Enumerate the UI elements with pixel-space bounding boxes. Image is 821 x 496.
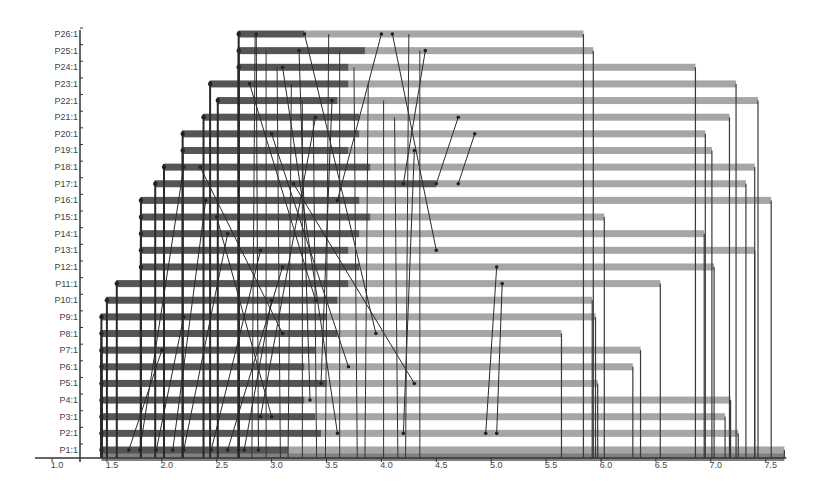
bar-light-segment [305,397,731,404]
row-label: P21:1 [54,112,78,122]
x-tick-label: 4.5 [435,460,448,470]
message-send-marker [182,315,186,319]
message-send-marker [259,249,263,253]
message-send-marker [424,49,428,53]
message-send-marker [204,199,208,203]
message-send-marker [198,165,202,169]
x-tick-label: 1.5 [106,460,119,470]
x-tick-label: 7.5 [764,460,777,470]
message-send-marker [226,232,230,236]
message-line [173,200,206,450]
message-recv-marker [237,448,241,452]
row-label: P10:1 [54,295,78,305]
message-recv-marker [456,182,460,186]
message-recv-marker [171,448,175,452]
row-label: P13:1 [54,245,78,255]
bar-light-segment [305,31,584,38]
row-label: P16:1 [54,195,78,205]
row-label: P19:1 [54,145,78,155]
x-tick-label: 6.5 [655,460,668,470]
x-tick-label: 6.0 [600,460,613,470]
message-recv-marker [435,182,439,186]
x-tick-label: 4.0 [380,460,393,470]
bar-dark-segment [183,147,349,154]
row-label: P18:1 [54,162,78,172]
bar-light-segment [327,380,598,387]
x-tick-label: 2.0 [161,460,174,470]
bar-light-segment [365,47,593,54]
x-tick-label: 2.5 [215,460,228,470]
message-recv-marker [347,365,351,369]
row-label: P11:1 [55,279,78,289]
message-send-marker [303,32,307,36]
bar-light-segment [327,313,596,320]
message-line [497,284,502,434]
message-recv-marker [336,432,340,436]
bar-light-segment [316,413,726,420]
row-label: P22:1 [54,96,78,106]
bar-light-segment [348,147,711,154]
x-tick-label: 5.5 [545,460,558,470]
row-label: P26:1 [54,29,78,39]
message-line [458,134,474,184]
bar-dark-segment [204,114,360,121]
message-send-marker [495,265,499,269]
bar-dark-segment [239,47,365,54]
message-recv-marker [270,415,274,419]
bar-light-segment [348,247,754,254]
message-send-marker [160,348,164,352]
x-tick-label: 3.0 [270,460,283,470]
message-recv-marker [259,415,263,419]
message-recv-marker [127,448,131,452]
bar-dark-segment [155,180,436,187]
bar-light-segment [348,280,660,287]
message-recv-marker [413,382,417,386]
start-marker [201,115,205,119]
message-recv-marker [402,182,406,186]
bar-light-segment [370,214,604,221]
y-axis: P1:1P2:1P3:1P4:1P5:1P6:1P7:1P8:1P9:1P10:… [54,28,83,462]
message-send-marker [237,32,241,36]
bar-dark-segment [101,380,326,387]
message-send-marker [270,132,274,136]
message-recv-marker [281,332,285,336]
row-label: P23:1 [54,79,78,89]
start-marker [139,198,143,202]
message-send-marker [182,165,186,169]
row-label: P1:1 [59,445,78,455]
x-tick-label: 1.0 [51,460,64,470]
row-label: P6:1 [59,362,78,372]
message-recv-marker [242,448,246,452]
message-line [256,34,258,450]
row-label: P15:1 [54,212,78,222]
row-label: P8:1 [59,329,78,339]
message-send-marker [456,115,460,119]
message-recv-marker [435,249,439,253]
message-send-marker [330,99,334,103]
start-marker [180,132,184,136]
row-label: P3:1 [59,412,78,422]
message-recv-marker [495,432,499,436]
message-send-marker [473,132,477,136]
bar-dark-segment [101,413,315,420]
message-send-marker [281,65,285,69]
message-send-marker [248,82,252,86]
message-send-marker [500,282,504,286]
message-recv-marker [209,448,213,452]
bar-dark-segment [239,31,305,38]
bar-light-segment [337,297,592,304]
bar-dark-segment [117,280,349,287]
message-send-marker [292,182,296,186]
bar-start-lines [99,31,241,458]
x-tick-label: 5.0 [490,460,503,470]
start-marker [115,281,119,285]
row-label: P20:1 [54,129,78,139]
message-send-marker [391,32,395,36]
bar-light-segment [337,330,561,337]
bar-dark-segment [101,313,326,320]
message-send-marker [380,32,384,36]
bar-dark-segment [210,80,348,87]
message-recv-marker [138,448,142,452]
message-line [140,167,184,450]
bar-light-segment [348,80,736,87]
